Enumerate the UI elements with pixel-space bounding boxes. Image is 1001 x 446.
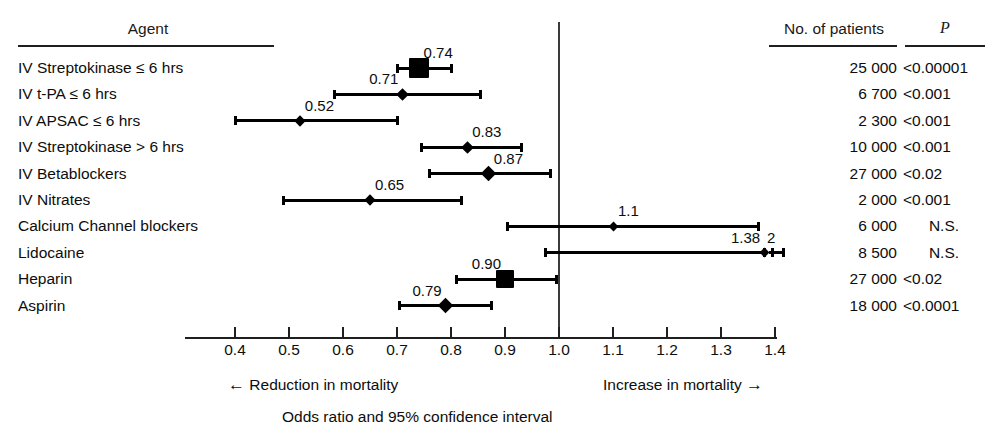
right-arrow-icon: → [746, 375, 763, 394]
x-axis-tick [774, 327, 776, 338]
p-value: <0.001 [903, 134, 987, 160]
p-value: <0.001 [903, 81, 987, 107]
table-row: IV Nitrates2 000<0.001 [0, 187, 1001, 213]
agent-label: IV t-PA ≤ 6 hrs [18, 81, 117, 107]
header-rule-p-value [905, 45, 985, 47]
forest-plot-figure: Agent No. of patients P IV Streptokinase… [0, 0, 1001, 446]
patient-count: 25 000 [769, 55, 897, 81]
patient-count: 6 000 [769, 213, 897, 239]
patient-count: 27 000 [769, 266, 897, 292]
patient-count: 10 000 [769, 134, 897, 160]
x-axis-tick [450, 327, 452, 338]
patient-count: 18 000 [769, 293, 897, 319]
agent-label: IV APSAC ≤ 6 hrs [18, 108, 140, 134]
agent-label: Heparin [18, 266, 72, 292]
left-arrow-icon: ← [228, 375, 245, 394]
p-value: N.S. [903, 240, 985, 266]
agent-label: Lidocaine [18, 240, 84, 266]
x-axis-tick [288, 327, 290, 338]
header-rule-patients [769, 45, 897, 47]
plot-caption: Odds ratio and 95% confidence interval [282, 408, 553, 426]
x-axis-tick-label: 0.8 [429, 341, 473, 359]
x-axis-tick-label: 1.0 [537, 341, 581, 359]
x-axis-tick-label: 0.4 [213, 341, 257, 359]
axis-note-reduction: ← Reduction in mortality [228, 375, 398, 395]
table-row: Heparin27 000<0.02 [0, 266, 1001, 292]
x-axis-tick [342, 327, 344, 338]
table-row: IV Streptokinase ≤ 6 hrs25 000<0.00001 [0, 55, 1001, 81]
p-value: N.S. [903, 213, 985, 239]
p-value: <0.0001 [903, 293, 987, 319]
table-row: IV t-PA ≤ 6 hrs6 700<0.001 [0, 81, 1001, 107]
agent-label: IV Nitrates [18, 187, 90, 213]
column-header-patients: No. of patients [769, 20, 899, 38]
patient-count: 2 300 [769, 108, 897, 134]
table-row: IV APSAC ≤ 6 hrs2 300<0.001 [0, 108, 1001, 134]
table-row: Calcium Channel blockers6 000N.S. [0, 213, 1001, 239]
x-axis-tick-label: 1.3 [699, 341, 743, 359]
table-row: Lidocaine8 500N.S. [0, 240, 1001, 266]
p-value: <0.001 [903, 108, 987, 134]
x-axis-tick-label: 0.9 [483, 341, 527, 359]
agent-label: IV Streptokinase ≤ 6 hrs [18, 55, 183, 81]
agent-label: IV Streptokinase > 6 hrs [18, 134, 184, 160]
column-header-p-value: P [930, 19, 960, 37]
p-value: <0.00001 [903, 55, 987, 81]
patient-count: 2 000 [769, 187, 897, 213]
patient-count: 6 700 [769, 81, 897, 107]
x-axis-tick-label: 0.6 [321, 341, 365, 359]
patient-count: 8 500 [769, 240, 897, 266]
x-axis-tick [666, 327, 668, 338]
x-axis-tick-label: 1.1 [591, 341, 635, 359]
axis-note-reduction-text: Reduction in mortality [249, 376, 398, 393]
column-header-agent: Agent [88, 20, 208, 38]
x-axis-tick [558, 327, 560, 338]
x-axis-tick-label: 1.2 [645, 341, 689, 359]
agent-label: Aspirin [18, 293, 65, 319]
agent-label: IV Betablockers [18, 161, 127, 187]
p-value: <0.02 [903, 161, 987, 187]
axis-note-increase: Increase in mortality → [603, 375, 763, 395]
x-axis-tick [504, 327, 506, 338]
x-axis-tick [234, 327, 236, 338]
axis-note-increase-text: Increase in mortality [603, 376, 742, 393]
x-axis-tick-label: 1.4 [753, 341, 797, 359]
x-axis-tick [396, 327, 398, 338]
x-axis-tick [612, 327, 614, 338]
x-axis-tick [720, 327, 722, 338]
p-value: <0.02 [903, 266, 987, 292]
x-axis-tick-label: 0.5 [267, 341, 311, 359]
x-axis-line [185, 337, 777, 339]
table-row: IV Betablockers27 000<0.02 [0, 161, 1001, 187]
agent-label: Calcium Channel blockers [18, 213, 198, 239]
table-row: Aspirin18 000<0.0001 [0, 293, 1001, 319]
patient-count: 27 000 [769, 161, 897, 187]
x-axis-tick-label: 0.7 [375, 341, 419, 359]
table-row: IV Streptokinase > 6 hrs10 000<0.001 [0, 134, 1001, 160]
p-value: <0.001 [903, 187, 987, 213]
header-rule-agent [18, 45, 274, 47]
